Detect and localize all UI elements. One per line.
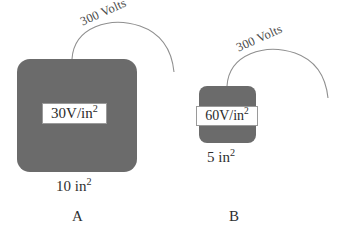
dimension-label-a-exponent: 2: [86, 176, 91, 187]
gradient-value-box-a: 30V/in2: [42, 103, 107, 124]
gradient-value-b-exponent: 2: [244, 106, 249, 116]
caption-a: A: [72, 209, 83, 224]
gradient-value-box-b: 60V/in2: [196, 106, 258, 126]
dimension-label-b: 5 in2: [207, 150, 235, 165]
dimension-label-b-exponent: 2: [230, 147, 235, 158]
caption-b: B: [229, 209, 239, 224]
gradient-value-a: 30V/in2: [51, 106, 98, 121]
figure-canvas: 30V/in2 60V/in2 10 in2 5 in2 300 Volts 3…: [0, 0, 339, 233]
dimension-label-a: 10 in2: [56, 179, 92, 194]
gradient-value-b: 60V/in2: [205, 109, 249, 123]
gradient-value-a-exponent: 2: [93, 103, 98, 114]
